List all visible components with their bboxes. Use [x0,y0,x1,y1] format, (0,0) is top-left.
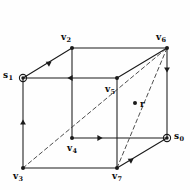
vertex-dot-v6 [165,46,169,50]
vertex-label-base-v2: v [61,32,66,42]
vertex-label-s1: s1 [3,71,13,80]
arrow-v6-s0-icon [164,67,170,72]
vertex-dot-v3 [21,166,25,170]
vertex-label-v7: v7 [112,172,122,181]
vertex-label-sub-s0: 0 [179,135,184,143]
vertex-label-base-r: r [140,99,145,109]
edge-r-diag [23,48,167,168]
arrow-layer [20,62,170,164]
edge-s0-v7 [117,138,167,168]
vertex-label-base-v6: v [156,32,161,42]
vertex-label-base-v5: v [105,84,110,94]
vertex-label-v5: v5 [105,85,115,94]
vertex-label-sub-v4: 4 [73,147,78,155]
cube-diagram: v2v6s1v5rv4s0v3v7 [0,0,190,190]
vertex-dot-s0 [165,136,168,139]
arrow-v4-s0-icon [97,135,102,141]
arrow-v3-s1-icon [20,119,26,124]
vertex-label-sub-s1: 1 [8,74,13,82]
vertex-label-sub-v2: 2 [67,36,72,44]
vertex-label-base-v4: v [67,143,72,153]
vertex-dot-v4 [70,136,74,140]
vertex-label-base-v7: v [112,171,117,181]
edge-layer [23,48,167,168]
vertex-label-s0: s0 [174,132,184,141]
vertex-label-sub-v7: 7 [118,175,123,183]
vertex-label-r: r [140,100,145,109]
vertex-label-v4: v4 [67,144,77,153]
vertex-label-v2: v2 [61,33,71,42]
vertex-label-v6: v6 [156,33,166,42]
vertex-label-sub-v6: 6 [162,36,167,44]
vertex-label-sub-v3: 3 [19,175,24,183]
vertex-label-base-v3: v [13,171,18,181]
vertex-dot-s1 [21,76,24,79]
vertex-dot-v7 [115,166,119,170]
vertex-dot-r [133,101,137,105]
vertex-label-sub-v5: 5 [111,88,116,96]
vertex-dot-v5 [115,76,119,80]
vertex-dot-v2 [70,46,74,50]
cube-svg [0,0,190,190]
vertex-label-v3: v3 [13,172,23,181]
arrow-v5-s1-icon [67,75,72,81]
edge-v6-v5 [117,48,167,78]
